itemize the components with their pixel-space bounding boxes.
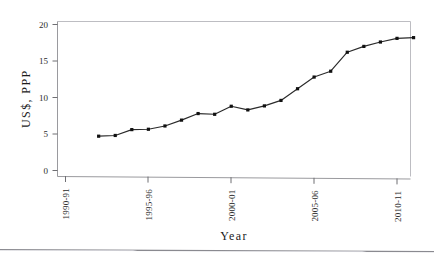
y-tick-label-10: 10 xyxy=(39,93,49,103)
x-tick-label-2010-11: 2010-11 xyxy=(393,191,403,222)
x-axis xyxy=(58,176,411,184)
x-axis-title-text: Year xyxy=(220,229,248,243)
data-point xyxy=(130,128,133,131)
y-tick-label-5: 5 xyxy=(44,129,49,139)
data-point xyxy=(246,108,249,111)
data-point xyxy=(114,134,117,137)
data-point xyxy=(362,45,365,48)
x-tick-labels: 1990-91 1995-96 2000-01 2005-06 2010-11 xyxy=(61,188,403,222)
y-tick-label-15: 15 xyxy=(39,56,49,66)
data-point xyxy=(180,119,183,122)
y-axis-title-text: US$, PPP xyxy=(19,69,33,128)
data-point xyxy=(163,124,166,127)
data-point xyxy=(263,104,266,107)
data-point xyxy=(230,105,233,108)
data-series xyxy=(97,36,415,138)
data-point xyxy=(379,40,382,43)
data-point xyxy=(412,36,415,39)
data-point xyxy=(395,37,398,40)
line-chart: 20 15 10 5 0 US$, PPP 1990-91 xyxy=(0,0,434,261)
data-point xyxy=(197,112,200,115)
y-axis-title: US$, PPP xyxy=(19,69,33,128)
data-point xyxy=(296,87,299,90)
x-axis-title: Year xyxy=(220,229,248,243)
data-point xyxy=(97,135,100,138)
page-canvas: 20 15 10 5 0 US$, PPP 1990-91 xyxy=(0,0,434,261)
data-point xyxy=(346,51,349,54)
x-tick-label-2005-06: 2005-06 xyxy=(310,190,320,222)
data-point xyxy=(147,128,150,131)
data-point xyxy=(279,99,282,102)
y-tick-label-20: 20 xyxy=(39,20,49,30)
x-tick-label-2000-01: 2000-01 xyxy=(227,190,237,221)
x-tick-label-1995-96: 1995-96 xyxy=(144,189,154,221)
data-point xyxy=(213,113,216,116)
data-point xyxy=(313,75,316,78)
data-point xyxy=(329,70,332,73)
y-tick-labels: 20 15 10 5 0 xyxy=(39,20,49,176)
series-polyline xyxy=(99,38,414,137)
y-axis xyxy=(53,22,58,177)
y-tick-label-0: 0 xyxy=(44,166,49,176)
plot-frame xyxy=(58,22,411,177)
x-tick-label-1990-91: 1990-91 xyxy=(61,188,71,219)
series-markers xyxy=(97,36,415,138)
